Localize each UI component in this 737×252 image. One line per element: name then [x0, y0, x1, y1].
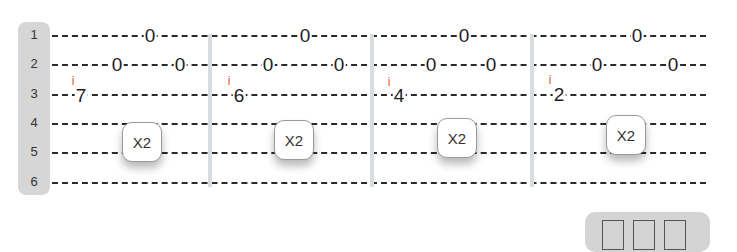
- layout-column-3: [664, 220, 686, 250]
- string-label-4: 4: [18, 116, 50, 130]
- layout-column-2: [633, 220, 655, 250]
- tab-note[interactable]: 2: [553, 85, 566, 105]
- tab-note[interactable]: 0: [262, 55, 275, 75]
- tab-note[interactable]: 0: [667, 55, 680, 75]
- finger-marker-index: i: [228, 75, 231, 87]
- tab-note[interactable]: 0: [299, 26, 312, 46]
- string-label-6: 6: [18, 175, 50, 189]
- tab-note[interactable]: 4: [393, 86, 406, 106]
- tab-note[interactable]: 0: [631, 26, 644, 46]
- finger-marker-index: i: [549, 74, 552, 86]
- tab-note[interactable]: 0: [591, 55, 604, 75]
- string-line-3: [52, 94, 706, 96]
- repeat-x2-button[interactable]: X2: [606, 115, 646, 155]
- tab-note[interactable]: 7: [75, 86, 88, 106]
- string-label-5: 5: [18, 145, 50, 159]
- tab-note[interactable]: 0: [333, 55, 346, 75]
- tab-note[interactable]: 0: [174, 55, 187, 75]
- tab-note[interactable]: 0: [144, 26, 157, 46]
- string-label-bar: 1 2 3 4 5 6: [18, 22, 50, 195]
- tab-note[interactable]: 0: [458, 26, 471, 46]
- tab-note[interactable]: 0: [485, 55, 498, 75]
- string-line-6: [52, 182, 706, 184]
- tab-note[interactable]: 0: [111, 55, 124, 75]
- string-label-3: 3: [18, 87, 50, 101]
- string-label-2: 2: [18, 57, 50, 71]
- repeat-x2-button[interactable]: X2: [274, 120, 314, 160]
- repeat-x2-button[interactable]: X2: [437, 118, 477, 158]
- bar-line-3: [530, 34, 534, 187]
- tab-note[interactable]: 6: [233, 86, 246, 106]
- string-line-2: [52, 64, 706, 66]
- bar-line-2: [370, 34, 374, 187]
- repeat-x2-button[interactable]: X2: [122, 122, 162, 162]
- finger-marker-index: i: [388, 76, 391, 88]
- layout-column-1: [602, 220, 624, 250]
- layout-toggle-button[interactable]: [585, 212, 710, 252]
- tab-note[interactable]: 0: [425, 55, 438, 75]
- bar-line-1: [208, 34, 212, 187]
- string-label-1: 1: [18, 28, 50, 42]
